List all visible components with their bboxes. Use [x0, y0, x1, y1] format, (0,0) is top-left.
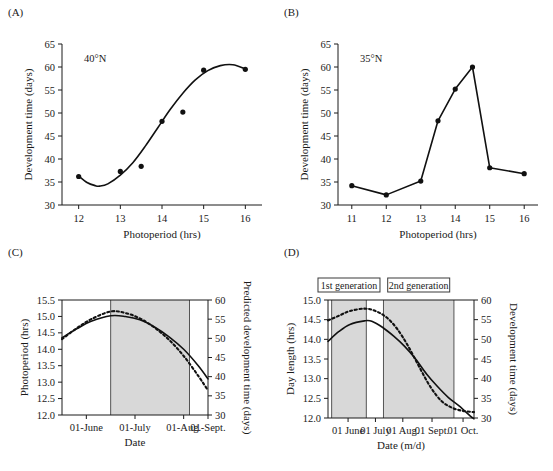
y-tick-label: 50 [45, 108, 56, 119]
x-tick-label: 14 [450, 213, 461, 224]
y-tick-label-left: 14.0 [37, 344, 55, 355]
data-point [201, 68, 206, 73]
data-point [180, 109, 185, 114]
x-tick-label: 11 [347, 213, 357, 224]
panel-b: (B)3035404550556065111213141516Photoperi… [276, 0, 553, 240]
y-axis-title-right: Predicted development time (days) [241, 281, 254, 435]
y-tick-label-left: 12.0 [37, 410, 55, 421]
x-tick-label: 16 [519, 213, 530, 224]
y-tick-label-left: 12.5 [303, 393, 321, 404]
panel-letter: (A) [8, 6, 24, 19]
chart-a: (A)30354045505560651213141516Photoperiod… [0, 0, 277, 240]
y-tick-label-right: 45 [215, 352, 226, 363]
x-tick-label: 13 [416, 213, 427, 224]
data-point [349, 183, 354, 188]
y-tick-label-right: 55 [481, 314, 492, 325]
shaded-band [332, 300, 367, 418]
y-tick-label-left: 15.0 [303, 295, 321, 306]
y-tick-label-right: 60 [481, 295, 492, 306]
y-tick-label-left: 14.0 [303, 334, 321, 345]
data-point [384, 192, 389, 197]
x-tick-label: 01-July [119, 422, 151, 433]
x-tick-label: 01-June [70, 422, 104, 433]
y-tick-label: 30 [45, 200, 56, 211]
panel-c: (C)12.012.513.013.514.014.515.015.530354… [0, 240, 277, 471]
y-tick-label-left: 13.0 [37, 377, 55, 388]
y-tick-label: 55 [321, 85, 332, 96]
y-tick-label: 45 [45, 131, 56, 142]
y-axis-title-right: Development time (days) [507, 303, 520, 415]
x-axis-title: Date (m/d) [377, 439, 425, 452]
x-tick-label: 13 [115, 213, 126, 224]
x-axis-title: Photoperiod (hrs) [123, 228, 201, 240]
data-point [453, 86, 458, 91]
data-point [487, 165, 492, 170]
data-point [139, 164, 144, 169]
x-tick-label: 01 Oct. [448, 425, 479, 436]
y-tick-label-right: 30 [481, 413, 492, 424]
data-point [522, 171, 527, 176]
data-point [243, 67, 248, 72]
y-tick-label-right: 45 [481, 354, 492, 365]
y-tick-label: 65 [321, 39, 332, 50]
panel-a: (A)30354045505560651213141516Photoperiod… [0, 0, 277, 240]
y-tick-label-left: 12.0 [303, 413, 321, 424]
panel-annotation: 35°N [360, 53, 383, 64]
y-tick-label-left: 14.5 [37, 327, 55, 338]
y-tick-label-left: 12.5 [37, 393, 55, 404]
x-tick-label: 12 [381, 213, 392, 224]
y-tick-label: 30 [321, 200, 332, 211]
y-tick-label-left: 15.0 [37, 311, 55, 322]
x-tick-label: 15 [198, 213, 209, 224]
y-tick-label-right: 35 [215, 390, 226, 401]
panel-letter: (B) [284, 6, 299, 19]
data-point [76, 174, 81, 179]
y-tick-label: 40 [321, 154, 332, 165]
y-tick-label: 65 [45, 39, 56, 50]
x-axis-title: Photoperiod (hrs) [399, 228, 477, 240]
fitted-curve [79, 64, 246, 186]
x-tick-label: 14 [157, 213, 168, 224]
data-point [159, 119, 164, 124]
panel-letter: (D) [284, 246, 300, 259]
y-axis-title-left: Day length (hrs) [284, 323, 297, 395]
y-axis-title: Development time (days) [22, 68, 35, 180]
y-tick-label: 60 [45, 62, 56, 73]
data-point [435, 118, 440, 123]
generation-label: 2nd generation [389, 280, 449, 291]
y-tick-label: 40 [45, 154, 56, 165]
figure-container: (A)30354045505560651213141516Photoperiod… [0, 0, 553, 471]
chart-c: (C)12.012.513.013.514.014.515.015.530354… [0, 240, 277, 471]
chart-d: (D)12.012.513.013.514.014.515.0303540455… [276, 240, 553, 471]
y-axis-title: Development time (days) [298, 68, 311, 180]
y-tick-label-right: 60 [215, 295, 226, 306]
panel-annotation: 40°N [84, 53, 107, 64]
y-tick-label-left: 15.5 [37, 295, 55, 306]
y-tick-label: 50 [321, 108, 332, 119]
panel-d: (D)12.012.513.013.514.014.515.0303540455… [276, 240, 553, 471]
x-tick-label: 01-Sept. [190, 422, 225, 433]
panel-letter: (C) [8, 246, 23, 259]
x-tick-label: 12 [73, 213, 84, 224]
y-tick-label-left: 14.5 [303, 314, 321, 325]
y-tick-label-right: 35 [481, 393, 492, 404]
y-tick-label: 60 [321, 62, 332, 73]
y-tick-label-right: 50 [215, 333, 226, 344]
y-tick-label-right: 40 [215, 371, 226, 382]
data-point [418, 178, 423, 183]
generation-label: 1st generation [321, 280, 377, 291]
y-tick-label-left: 13.5 [303, 354, 321, 365]
y-tick-label: 35 [321, 177, 332, 188]
chart-b: (B)3035404550556065111213141516Photoperi… [276, 0, 553, 240]
x-axis-title: Date [125, 436, 146, 448]
y-tick-label-right: 30 [215, 410, 226, 421]
y-tick-label-right: 50 [481, 334, 492, 345]
y-tick-label-left: 13.5 [37, 360, 55, 371]
x-tick-label: 16 [240, 213, 251, 224]
data-point [470, 64, 475, 69]
y-tick-label: 35 [45, 177, 56, 188]
shaded-band [383, 300, 453, 418]
y-tick-label-left: 13.0 [303, 373, 321, 384]
y-tick-label-right: 40 [481, 373, 492, 384]
y-tick-label: 45 [321, 131, 332, 142]
